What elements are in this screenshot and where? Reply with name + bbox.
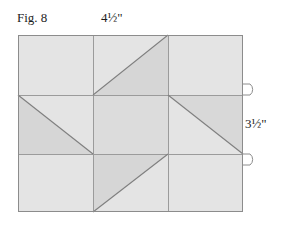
dimension-tab-bottom (243, 154, 253, 165)
dimension-tab-top (243, 84, 253, 95)
top-dimension-label: 4½" (101, 11, 123, 25)
figure-canvas: Fig. 8 4½" 3½" (0, 0, 281, 225)
block-fills (18, 35, 243, 212)
quilt-block-diagram (0, 0, 281, 225)
right-dimension-label: 3½" (245, 117, 267, 131)
center-square-fill (93, 95, 168, 154)
figure-caption: Fig. 8 (17, 11, 47, 25)
